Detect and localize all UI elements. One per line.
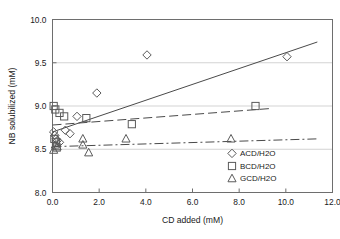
x-axis-title: CD added (mM) [162, 215, 223, 225]
y-axis-title: NB solubilized (mM) [7, 67, 17, 144]
y-tick-label: 9.0 [35, 101, 47, 111]
x-tick-label: 12.0 [324, 197, 340, 207]
x-tick-label: 8.0 [233, 197, 245, 207]
x-tick-label: 10.0 [278, 197, 295, 207]
x-tick-label: 4.0 [140, 197, 152, 207]
x-tick-label: 0.0 [47, 197, 59, 207]
x-tick-label: 2.0 [93, 197, 105, 207]
legend-label: ACD/H2O [240, 149, 276, 158]
x-tick-label: 6.0 [187, 197, 199, 207]
y-tick-label: 10.0 [30, 15, 47, 25]
legend-label: GCD/H2O [240, 174, 276, 183]
y-tick-label: 8.0 [35, 188, 47, 198]
chart-figure: 0.02.04.06.08.010.012.0 8.08.59.09.510.0… [0, 0, 340, 239]
y-tick-label: 8.5 [35, 144, 47, 154]
legend-label: BCD/H2O [240, 162, 276, 171]
y-tick-label: 9.5 [35, 58, 47, 68]
